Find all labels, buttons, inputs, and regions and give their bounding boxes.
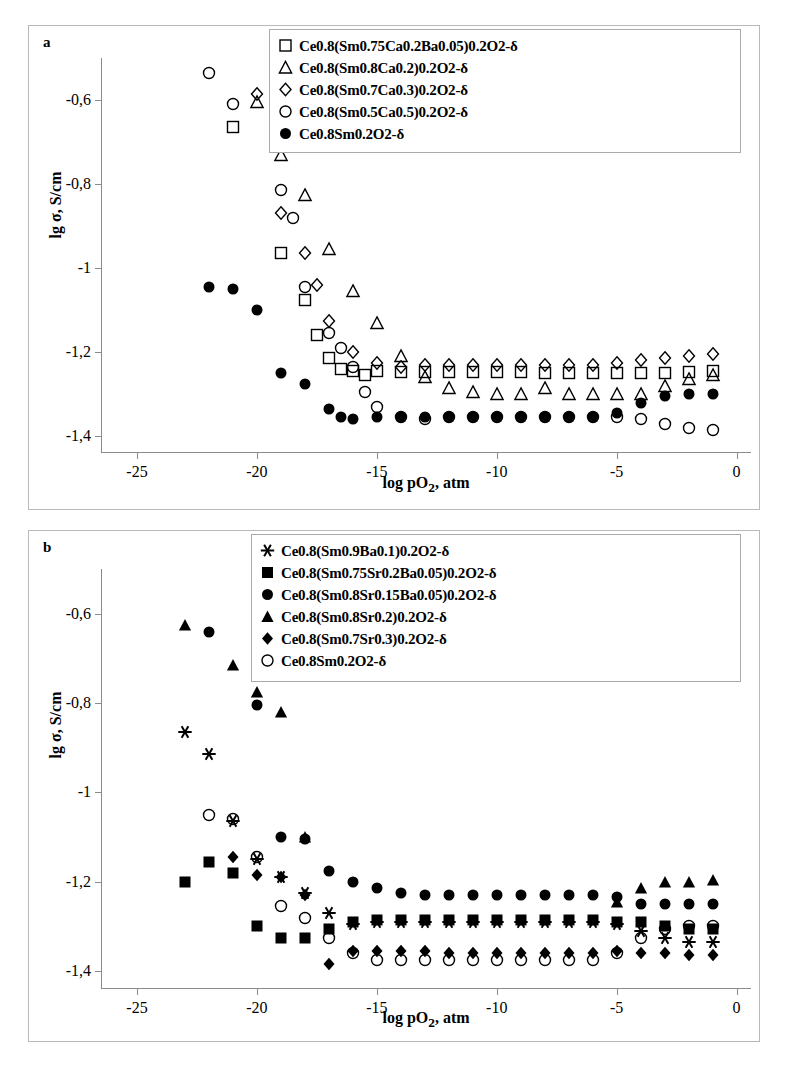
data-point-filled-circle	[201, 624, 216, 639]
legend-item-label: Ce0.8(Sm0.7Ca0.3)0.2O2-δ	[299, 82, 468, 99]
data-point-open-square	[537, 366, 552, 381]
data-point-open-square	[681, 365, 696, 380]
data-point-asterisk	[561, 914, 576, 929]
data-point-filled-square	[441, 912, 456, 927]
data-point-filled-triangle	[633, 881, 648, 896]
data-point-open-triangle	[705, 368, 720, 383]
data-point-open-circle	[609, 410, 624, 425]
filled-diamond-icon	[260, 631, 277, 648]
x-tick-label-a-0: -25	[126, 463, 147, 481]
data-point-open-square	[417, 364, 432, 379]
data-point-filled-square	[609, 914, 624, 929]
data-point-filled-circle	[657, 389, 672, 404]
data-point-filled-circle	[249, 303, 264, 318]
data-point-asterisk	[369, 914, 384, 929]
legend-item: Ce0.8(Sm0.8Ca0.2)0.2O2-δ	[278, 57, 730, 79]
data-point-filled-diamond	[273, 870, 288, 885]
data-point-open-diamond	[705, 347, 720, 362]
data-point-asterisk	[441, 914, 456, 929]
data-point-open-square	[369, 364, 384, 379]
data-point-open-diamond	[309, 277, 324, 292]
data-point-open-circle	[369, 399, 384, 414]
data-point-filled-circle	[561, 410, 576, 425]
filled-square-icon	[260, 565, 277, 582]
data-point-open-square	[321, 351, 336, 366]
data-point-filled-diamond	[633, 946, 648, 961]
data-point-open-diamond	[657, 351, 672, 366]
data-point-filled-triangle	[225, 658, 240, 673]
data-point-open-triangle	[657, 378, 672, 393]
data-point-open-square	[357, 368, 372, 383]
data-point-open-circle	[225, 812, 240, 827]
data-point-asterisk	[249, 852, 264, 867]
data-point-open-circle	[465, 952, 480, 967]
data-point-open-diamond	[561, 357, 576, 372]
data-point-open-triangle	[249, 95, 264, 110]
data-point-open-circle	[369, 952, 384, 967]
data-point-filled-circle	[273, 830, 288, 845]
data-point-open-circle	[249, 850, 264, 865]
data-point-filled-circle	[513, 888, 528, 903]
data-point-filled-circle	[417, 888, 432, 903]
y-tick-a-1	[95, 184, 101, 185]
y-axis-title-b: lg σ, S/cm	[47, 692, 65, 759]
data-point-open-circle	[537, 952, 552, 967]
data-point-filled-square	[321, 921, 336, 936]
data-point-open-circle	[333, 340, 348, 355]
data-point-filled-circle	[297, 376, 312, 391]
data-point-asterisk	[633, 923, 648, 938]
legend-a: Ce0.8(Sm0.75Ca0.2Ba0.05)0.2O2-δCe0.8(Sm0…	[269, 29, 741, 153]
x-tick-label-a-4: -5	[610, 463, 623, 481]
data-point-filled-square	[201, 854, 216, 869]
data-point-filled-diamond	[369, 944, 384, 959]
data-point-filled-square	[369, 912, 384, 927]
legend-item-label: Ce0.8(Sm0.9Ba0.1)0.2O2-δ	[281, 543, 449, 560]
data-point-filled-circle	[345, 874, 360, 889]
x-tick-a-4	[617, 453, 618, 459]
x-tick-label-a-3: -10	[486, 463, 507, 481]
data-point-open-triangle	[537, 380, 552, 395]
x-tick-label-b-0: -25	[126, 999, 147, 1017]
data-point-asterisk	[489, 914, 504, 929]
data-point-open-diamond	[369, 355, 384, 370]
data-point-open-circle	[465, 410, 480, 425]
data-point-open-circle	[585, 952, 600, 967]
figure-root: a -0,6-0,8-1-1,2-1,4-25-20-15-10-50 lg σ…	[0, 0, 788, 1074]
data-point-open-diamond	[273, 206, 288, 221]
open-square-icon	[278, 38, 295, 55]
data-point-asterisk	[417, 914, 432, 929]
data-point-open-triangle	[633, 387, 648, 402]
data-point-open-circle	[417, 952, 432, 967]
data-point-filled-circle	[321, 401, 336, 416]
data-point-filled-circle	[657, 897, 672, 912]
data-point-open-square	[705, 364, 720, 379]
y-tick-label-a-2: -1	[78, 259, 91, 277]
data-point-open-circle	[441, 410, 456, 425]
data-point-asterisk	[465, 914, 480, 929]
data-point-open-diamond	[441, 357, 456, 372]
data-point-asterisk	[705, 935, 720, 950]
data-point-open-triangle	[681, 372, 696, 387]
data-point-filled-triangle	[705, 872, 720, 887]
data-point-open-diamond	[249, 86, 264, 101]
data-point-open-circle	[417, 412, 432, 427]
data-point-filled-diamond	[441, 946, 456, 961]
x-tick-a-5	[737, 453, 738, 459]
data-point-open-circle	[705, 422, 720, 437]
data-point-open-circle	[201, 65, 216, 80]
data-point-open-diamond	[321, 313, 336, 328]
data-point-filled-diamond	[585, 946, 600, 961]
data-point-open-circle	[345, 946, 360, 961]
data-point-open-circle	[285, 210, 300, 225]
data-point-open-circle	[321, 930, 336, 945]
data-point-filled-triangle	[681, 874, 696, 889]
data-point-open-diamond	[345, 345, 360, 360]
data-point-open-diamond	[537, 357, 552, 372]
data-point-open-circle	[345, 359, 360, 374]
data-point-open-circle	[321, 326, 336, 341]
data-point-open-circle	[489, 952, 504, 967]
data-point-filled-circle	[225, 282, 240, 297]
x-tick-b-5	[737, 989, 738, 995]
data-point-asterisk	[585, 914, 600, 929]
data-point-filled-square	[249, 919, 264, 934]
